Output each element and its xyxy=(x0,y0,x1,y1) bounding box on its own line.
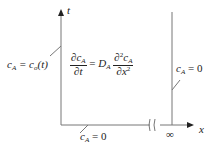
left-pointer xyxy=(50,46,61,56)
x-axis-arrow-icon xyxy=(187,122,194,128)
bottom-boundary-condition: cA = 0 xyxy=(80,131,106,144)
right-pointer xyxy=(172,80,180,90)
t-axis-label: t xyxy=(67,5,70,16)
left-boundary-condition: cA = co(t) xyxy=(7,59,48,72)
infinity-label: ∞ xyxy=(166,129,174,140)
right-boundary-condition: cA = 0 xyxy=(176,63,202,76)
diffusion-equation: ∂cA∂t = DA ∂2cA∂x2 xyxy=(70,52,133,77)
t-axis-arrow-icon xyxy=(58,9,64,16)
x-axis-label: x xyxy=(199,124,204,135)
